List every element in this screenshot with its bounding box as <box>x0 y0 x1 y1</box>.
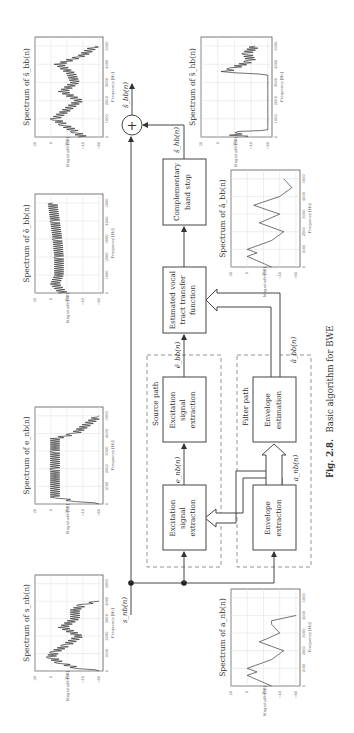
svg-text:−40: −40 <box>81 675 85 683</box>
svg-text:3000: 3000 <box>105 234 109 244</box>
excitation-extraction-block: Excitation signal extraction <box>163 485 206 550</box>
svg-text:2000: 2000 <box>105 95 109 105</box>
plot-title: Spectrum of e_nb(n) <box>22 416 31 495</box>
svg-text:function: function <box>188 285 197 315</box>
plus-icon: + <box>127 118 138 133</box>
signal-label-s-hb: s̃_hb(n) <box>173 127 181 153</box>
svg-text:−40: −40 <box>278 690 282 698</box>
svg-text:5000: 5000 <box>302 174 306 184</box>
svg-text:−60: −60 <box>97 297 101 305</box>
svg-text:0: 0 <box>245 271 249 274</box>
svg-text:3000: 3000 <box>274 77 278 87</box>
x-axis-label: Frequency [Hz] <box>110 228 115 259</box>
svg-text:Excitation: Excitation <box>168 499 177 536</box>
svg-text:1000: 1000 <box>302 663 306 673</box>
svg-text:0: 0 <box>216 141 220 144</box>
svg-text:extraction: extraction <box>274 499 283 536</box>
plot-s-bb: 200−20−40−60010002000300040005000Spectru… <box>22 37 115 167</box>
svg-text:extraction: extraction <box>188 391 197 428</box>
y-axis-label: Magnitude [dB] <box>262 685 267 716</box>
svg-text:0: 0 <box>49 675 53 678</box>
svg-text:1000: 1000 <box>274 114 278 124</box>
plot-title: Spectrum of â_bb(n) <box>218 179 227 258</box>
svg-text:5000: 5000 <box>302 593 306 603</box>
svg-text:4000: 4000 <box>105 428 109 438</box>
svg-text:0: 0 <box>105 135 109 138</box>
svg-text:5000: 5000 <box>105 411 109 421</box>
svg-text:−60: −60 <box>266 141 270 149</box>
svg-text:5000: 5000 <box>274 41 278 51</box>
svg-text:4000: 4000 <box>105 596 109 606</box>
svg-text:−40: −40 <box>81 297 85 305</box>
plot-a-nb: 200−20−40−60010002000300040005000Spectru… <box>218 589 312 716</box>
plot-title: Spectrum of s_nb(n) <box>22 584 31 662</box>
signal-label-e-bb: ẽ_bb(n) <box>174 341 182 368</box>
y-axis-label: Magnitude [dB] <box>65 292 70 323</box>
svg-text:1000: 1000 <box>105 114 109 124</box>
plot-title: Spectrum of s̃_hb(n) <box>188 48 197 126</box>
svg-text:signal: signal <box>178 398 187 421</box>
y-axis-label: Magnitude [dB] <box>65 670 70 701</box>
svg-text:1000: 1000 <box>302 244 306 254</box>
wide-arrow-a-to-estimation <box>262 444 286 485</box>
svg-text:1000: 1000 <box>105 270 109 280</box>
signal-label-s-bb-output: ŝ_bb(n) <box>122 82 130 108</box>
x-axis-label: Frequency [Hz] <box>307 622 312 653</box>
svg-text:5000: 5000 <box>105 41 109 51</box>
svg-text:−40: −40 <box>81 508 85 516</box>
svg-text:3000: 3000 <box>105 613 109 623</box>
y-axis-label: Magnitude [dB] <box>233 136 238 167</box>
svg-text:20: 20 <box>33 141 37 146</box>
svg-text:−60: −60 <box>97 141 101 149</box>
plot-title: Spectrum of ẽ_bb(n) <box>22 204 31 283</box>
plot-s-hb: 200−20−40−60010002000300040005000Spectru… <box>188 37 284 167</box>
svg-text:Estimated vocal: Estimated vocal <box>168 270 177 329</box>
svg-text:Excitation: Excitation <box>168 391 177 428</box>
svg-text:2000: 2000 <box>274 95 278 105</box>
svg-text:0: 0 <box>274 135 278 138</box>
svg-text:3000: 3000 <box>105 446 109 456</box>
svg-text:20: 20 <box>199 141 203 146</box>
envelope-estimation-block: Envelope estimation <box>253 377 296 442</box>
plot-title: Spectrum of a_nb(n) <box>218 598 227 677</box>
svg-text:Complementary: Complementary <box>172 162 181 221</box>
svg-text:4000: 4000 <box>302 610 306 620</box>
caption-number: Fig. 2.8. <box>325 439 335 478</box>
x-axis-label: Frequency [Hz] <box>307 203 312 234</box>
signal-label-e-nb: e_nb(n) <box>174 456 182 483</box>
svg-text:4000: 4000 <box>274 59 278 69</box>
plot-s-nb: 200−20−40−60010002000300040005000Spectru… <box>22 575 115 701</box>
svg-text:0: 0 <box>49 141 53 144</box>
svg-text:3000: 3000 <box>302 209 306 219</box>
svg-text:−40: −40 <box>249 141 253 149</box>
svg-text:0: 0 <box>302 265 306 268</box>
signal-label-a-nb: a_nb(n) <box>292 454 300 481</box>
svg-text:−60: −60 <box>294 271 298 279</box>
svg-text:2000: 2000 <box>302 645 306 655</box>
svg-text:tract transfer: tract transfer <box>178 275 187 325</box>
svg-text:5000: 5000 <box>105 198 109 208</box>
svg-text:−60: −60 <box>97 675 101 683</box>
excitation-extraction-block-2: Excitation signal extraction <box>163 377 206 442</box>
wide-arrow-a-hat-to-vt <box>206 289 280 377</box>
svg-text:0: 0 <box>49 297 53 300</box>
svg-text:0: 0 <box>105 502 109 505</box>
svg-text:Fig. 2.8. Basic algorith: Fig. 2.8. Basic algorithm for BWE <box>325 326 335 478</box>
svg-text:−40: −40 <box>278 271 282 279</box>
svg-text:4000: 4000 <box>105 59 109 69</box>
svg-text:0: 0 <box>105 291 109 294</box>
svg-text:3000: 3000 <box>302 628 306 638</box>
x-axis-label: Frequency [Hz] <box>110 440 115 471</box>
filter-path-label: Filter path <box>241 387 250 426</box>
x-axis-label: Frequency [Hz] <box>110 71 115 102</box>
plot-e-bb: 200−20−40−60010002000300040005000Spectru… <box>22 194 115 323</box>
bwe-block-diagram-figure: Source path Filter path Excitation signa… <box>0 0 354 733</box>
figure-caption: Fig. 2.8. Basic algorithm for BWE <box>325 326 335 478</box>
svg-text:1000: 1000 <box>105 481 109 491</box>
x-axis-label: Frequency [Hz] <box>279 71 284 102</box>
svg-text:2000: 2000 <box>105 252 109 262</box>
signal-label-s-nb-input: s_nb(n) <box>121 597 129 623</box>
svg-text:20: 20 <box>33 675 37 680</box>
vocal-tract-transfer-block: Estimated vocal tract transfer function <box>163 267 206 333</box>
svg-text:2000: 2000 <box>105 463 109 473</box>
